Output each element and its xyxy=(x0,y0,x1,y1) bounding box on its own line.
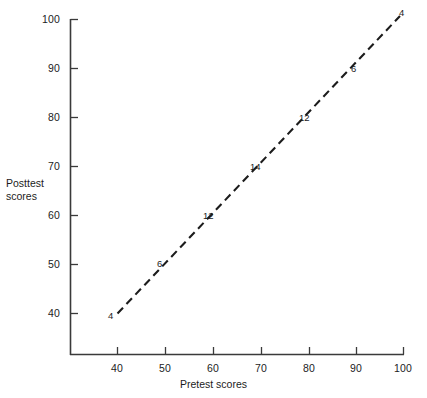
y-tick-label-70: 70 xyxy=(30,160,60,172)
x-tick-label-60: 60 xyxy=(193,362,233,374)
y-axis-title: Posttest scores xyxy=(6,177,44,203)
x-tick-label-100: 100 xyxy=(383,362,423,374)
y-tick-label-80: 80 xyxy=(30,111,60,123)
y-tick-label-60: 60 xyxy=(30,209,60,221)
y-tick-label-100: 100 xyxy=(30,13,60,25)
x-tick-label-70: 70 xyxy=(241,362,281,374)
x-axis-ticks xyxy=(118,347,404,355)
point-label-90: 6 xyxy=(351,63,356,74)
chart-canvas xyxy=(0,0,427,398)
y-tick-label-90: 90 xyxy=(30,62,60,74)
point-label-80: 12 xyxy=(299,112,310,123)
x-tick-label-50: 50 xyxy=(145,362,185,374)
y-tick-label-50: 50 xyxy=(30,258,60,270)
point-label-100: 4 xyxy=(399,7,404,18)
x-axis-title: Pretest scores xyxy=(0,378,427,391)
point-label-50: 6 xyxy=(157,258,162,269)
y-axis-ticks xyxy=(71,20,79,314)
point-label-60: 12 xyxy=(203,210,214,221)
x-tick-label-80: 80 xyxy=(289,362,329,374)
y-tick-label-40: 40 xyxy=(30,307,60,319)
chart-figure: 100 90 80 70 60 50 40 40 50 60 70 80 90 … xyxy=(0,0,427,398)
x-tick-label-90: 90 xyxy=(336,362,376,374)
point-label-40: 4 xyxy=(108,310,113,321)
y-axis-title-line2: scores xyxy=(6,190,44,203)
y-axis-title-line1: Posttest xyxy=(6,177,44,190)
x-tick-label-40: 40 xyxy=(97,362,137,374)
point-label-70: 14 xyxy=(250,161,261,172)
